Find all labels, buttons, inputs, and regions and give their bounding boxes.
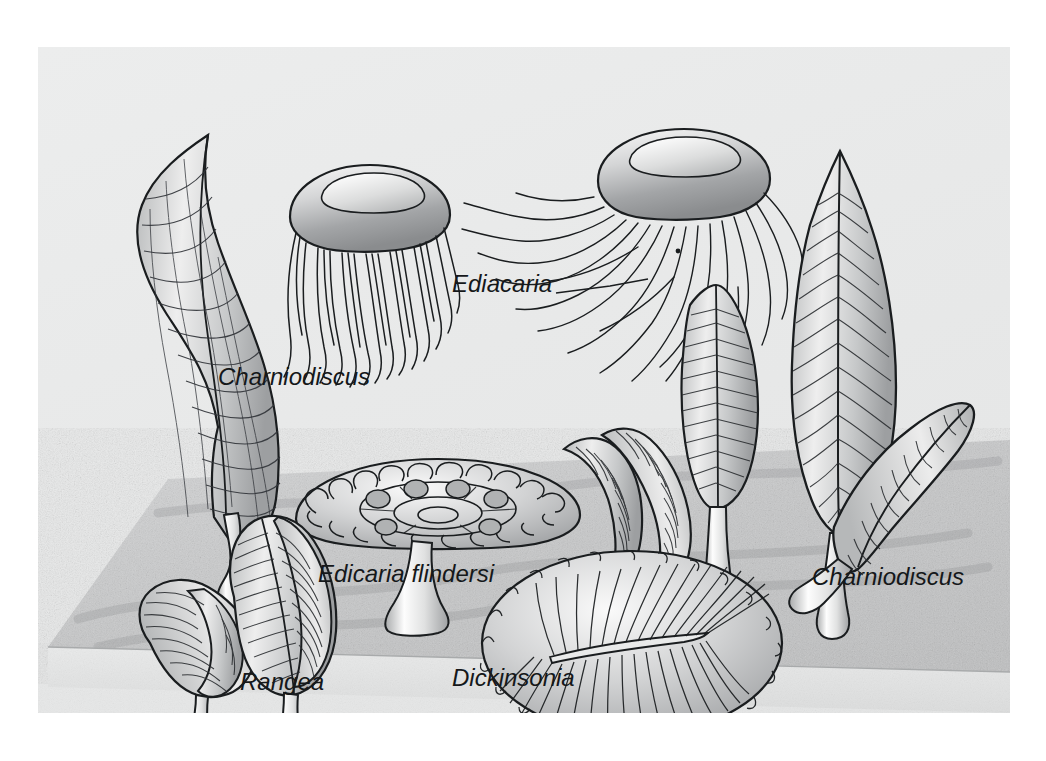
illustration-panel: Charniodiscus Ediacaria Edicaria flinder… xyxy=(38,47,1010,713)
label-charniodiscus-right: Charniodiscus xyxy=(812,563,964,590)
ediacaria-jelly-left xyxy=(284,165,460,387)
ediacaria-leader-line xyxy=(556,279,648,293)
ediacaria-right-tentacle-knot xyxy=(676,249,681,254)
label-edicaria-flindersi: Edicaria flindersi xyxy=(318,560,495,587)
rangea-large-stalk xyxy=(275,693,305,713)
label-charniodiscus-left: Charniodiscus xyxy=(218,363,370,390)
ediacaria-jelly-right xyxy=(462,129,803,381)
rangea-small-stalk xyxy=(184,695,212,713)
label-ediacaria: Ediacaria xyxy=(452,270,552,297)
illustration-stage: Charniodiscus Ediacaria Edicaria flinder… xyxy=(0,0,1046,761)
label-dickinsonia: Dickinsonia xyxy=(452,664,575,691)
ediacaran-scene: Charniodiscus Ediacaria Edicaria flinder… xyxy=(38,47,1010,713)
label-rangea: Rangea xyxy=(240,668,324,695)
